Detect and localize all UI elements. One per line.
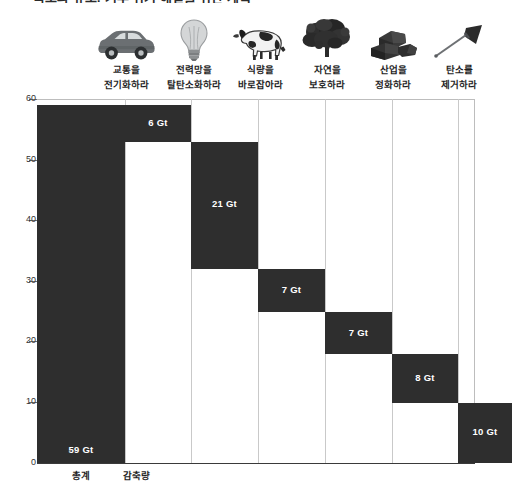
bar-industry[interactable]: 8 Gt: [392, 354, 458, 403]
column-header-nature: 자연을 보호하라: [296, 63, 358, 95]
column-header-transport-line2: 전기화하라: [94, 78, 158, 93]
tree-icon: [296, 12, 358, 62]
y-axis-label-10: 10: [10, 396, 36, 406]
plot-area: 59 Gt 6 Gt 21 Gt 7 Gt 7 Gt 8 Gt 10 Gt: [37, 99, 475, 463]
bar-label-grid: 21 Gt: [191, 198, 258, 209]
column-header-row: 교통을 전기화하라 전력망을 탈탄소화하라 식량을 바로잡아라 자연을 보호하라…: [0, 63, 498, 95]
column-header-nature-line1: 자연을: [296, 63, 358, 78]
column-header-industry-line1: 산업을: [362, 63, 424, 78]
y-axis-label-50: 50: [10, 154, 36, 164]
coal-icon: [362, 12, 424, 62]
column-header-removal-line2: 제거하라: [428, 78, 490, 93]
column-separator: [392, 99, 393, 463]
bar-label-nature: 7 Gt: [325, 327, 392, 338]
bar-food[interactable]: 7 Gt: [258, 269, 325, 312]
chart-title-clipped: 속도와 규모: 기후 위기 해결을 위한 계획: [33, 0, 303, 3]
column-header-food-line2: 바로잡아라: [228, 78, 292, 93]
lightbulb-icon: [165, 12, 223, 62]
column-header-transport: 교통을 전기화하라: [94, 63, 158, 95]
bar-label-transport: 6 Gt: [125, 117, 191, 128]
column-header-removal-line1: 탄소를: [428, 63, 490, 78]
bar-removal[interactable]: 10 Gt: [458, 403, 512, 463]
y-axis-label-20: 20: [10, 335, 36, 345]
bar-label-removal: 10 Gt: [458, 426, 512, 437]
column-separator: [325, 99, 326, 463]
bar-label-industry: 8 Gt: [392, 372, 458, 383]
bar-transport[interactable]: 6 Gt: [125, 105, 191, 142]
column-header-nature-line2: 보호하라: [296, 78, 358, 93]
column-header-industry: 산업을 정화하라: [362, 63, 424, 95]
column-header-grid: 전력망을 탈탄소화하라: [160, 63, 228, 95]
car-icon: [95, 12, 157, 62]
plot-top-border: [37, 99, 475, 100]
bar-label-total: 59 Gt: [37, 444, 125, 455]
column-header-removal: 탄소를 제거하라: [428, 63, 490, 95]
vacuum-icon: [428, 12, 490, 62]
column-header-food: 식량을 바로잡아라: [228, 63, 292, 95]
bar-label-food: 7 Gt: [258, 284, 325, 295]
y-axis-label-30: 30: [10, 275, 36, 285]
x-axis-line: [37, 463, 475, 464]
column-header-grid-line2: 탈탄소화하라: [160, 78, 228, 93]
bar-total[interactable]: 59 Gt: [37, 105, 125, 463]
column-separator: [125, 99, 126, 463]
column-header-transport-line1: 교통을: [94, 63, 158, 78]
column-header-industry-line2: 정화하라: [362, 78, 424, 93]
y-axis-label-40: 40: [10, 214, 36, 224]
x-axis-label-reduction: 감축량: [92, 468, 180, 482]
bar-grid[interactable]: 21 Gt: [191, 142, 258, 269]
column-header-food-line1: 식량을: [228, 63, 292, 78]
column-header-grid-line1: 전력망을: [160, 63, 228, 78]
cow-icon: [228, 12, 292, 62]
icon-row: [0, 12, 498, 62]
y-axis-label-0: 0: [10, 457, 36, 467]
y-axis-label-60: 60: [10, 93, 36, 103]
chart-title-text: 속도와 규모: 기후 위기 해결을 위한 계획: [33, 0, 303, 3]
bar-nature[interactable]: 7 Gt: [325, 312, 392, 354]
